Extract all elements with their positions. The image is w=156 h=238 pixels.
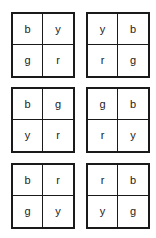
grid-cell-bottom-right: r [43,120,73,151]
color-grid-row3-left: b r g y [11,163,75,229]
grid-cell-bottom-right: y [118,120,148,151]
grid-cell-bottom-right: g [118,45,148,76]
grid-cell-bottom-right: r [43,45,73,76]
grid-cell-top-right: r [43,165,73,196]
grid-cell-bottom-left: g [13,196,43,227]
grid-cell-top-left: b [13,14,43,45]
grid-cell-top-left: b [13,89,43,120]
grid-cell-bottom-left: g [13,45,43,76]
grid-cell-top-left: b [13,165,43,196]
grid-cell-bottom-right: g [118,196,148,227]
grid-cell-bottom-left: r [88,45,118,76]
grid-cell-top-right: b [118,165,148,196]
color-grid-row1-right: y b r g [86,12,150,78]
grid-cell-top-right: b [118,14,148,45]
color-grid-row1-left: b y g r [11,12,75,78]
color-grid-row2-left: b g y r [11,87,75,153]
grid-cell-bottom-left: y [13,120,43,151]
grid-cell-bottom-left: y [88,196,118,227]
color-grid-row3-right: r b y g [86,163,150,229]
grid-cell-top-left: r [88,165,118,196]
grid-cell-bottom-left: r [88,120,118,151]
grid-cell-bottom-right: y [43,196,73,227]
color-grid-row2-right: g b r y [86,87,150,153]
grid-cell-top-right: y [43,14,73,45]
grid-cell-top-left: g [88,89,118,120]
grid-cell-top-left: y [88,14,118,45]
grid-cell-top-right: b [118,89,148,120]
grid-cell-top-right: g [43,89,73,120]
